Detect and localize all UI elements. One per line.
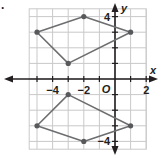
x-tick-label: −4 — [46, 84, 59, 96]
vertex-point — [66, 61, 71, 66]
y-axis-down-arrow-icon — [112, 146, 119, 155]
y-tick-label: 4 — [104, 11, 111, 23]
vertex-point — [128, 30, 133, 35]
x-axis-right-arrow-icon — [149, 76, 158, 83]
x-axis-left-arrow-icon — [4, 76, 13, 83]
vertex-point — [34, 123, 39, 128]
vertex-point — [81, 139, 86, 144]
axes — [4, 3, 158, 155]
vertex-point — [34, 30, 39, 35]
vertex-point — [81, 14, 86, 19]
vertex-point — [128, 123, 133, 128]
y-axis-up-arrow-icon — [112, 3, 119, 12]
y-tick-label: −4 — [97, 135, 110, 147]
x-axis-label: x — [149, 64, 157, 76]
x-tick-label: 2 — [143, 84, 149, 96]
corner-mark: . — [1, 0, 4, 12]
x-tick-label: −2 — [78, 84, 91, 96]
origin-label: O — [102, 83, 111, 95]
vertex-point — [66, 92, 71, 97]
coordinate-plane: −4−224−4Oxy — [0, 0, 162, 158]
y-axis-label: y — [120, 2, 128, 14]
